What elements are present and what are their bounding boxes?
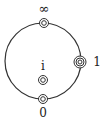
point-infinity [40, 19, 49, 28]
point-one [74, 56, 86, 68]
label-zero: 0 [39, 106, 47, 120]
point-i [39, 76, 48, 85]
label-one: 1 [93, 55, 101, 69]
label-infinity: ∞ [39, 1, 50, 16]
point-zero [39, 95, 48, 104]
label-i: i [41, 59, 45, 73]
diagram-canvas: ∞ 1 i 0 [0, 0, 108, 127]
